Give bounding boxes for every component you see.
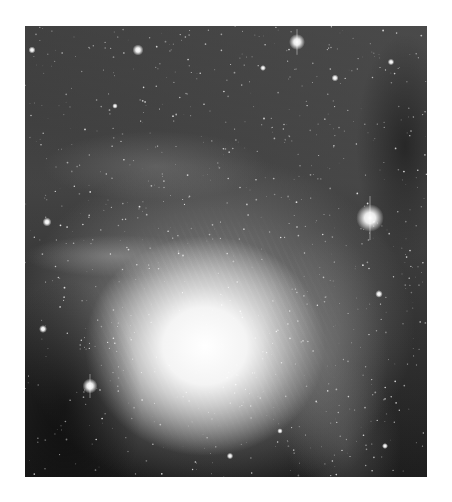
star	[133, 45, 144, 56]
nebula-photo	[25, 26, 427, 477]
star	[332, 75, 339, 82]
star	[112, 103, 118, 109]
star	[227, 453, 234, 460]
star	[375, 290, 383, 298]
star	[260, 65, 266, 71]
star-field	[25, 26, 427, 477]
star	[29, 47, 36, 54]
star	[43, 218, 52, 227]
star	[277, 428, 283, 434]
star	[39, 325, 47, 333]
star	[382, 443, 388, 449]
star	[388, 59, 395, 66]
